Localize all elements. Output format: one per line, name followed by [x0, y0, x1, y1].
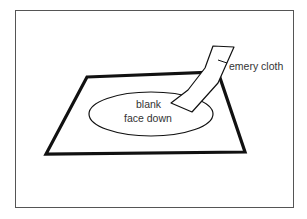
blank-label-line2: face down [124, 112, 172, 124]
diagram-canvas: emery cloth blank face down [0, 0, 307, 219]
emery-cloth-label: emery cloth [229, 60, 283, 72]
blank-label-line1: blank [136, 98, 162, 110]
